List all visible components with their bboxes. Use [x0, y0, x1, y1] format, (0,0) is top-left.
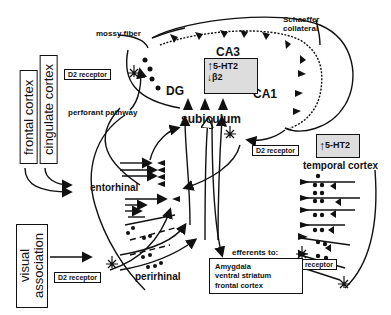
visual-association-line1: visual: [17, 248, 32, 281]
schaffer-collateral-label-line2: collateral: [283, 25, 318, 33]
temporal-cortex-outline: [345, 170, 376, 288]
serotonin-beta-receptor-box: ↑ 5-HT2 ↓ β2: [204, 58, 258, 94]
5ht2-temporal-label: 5-HT2: [325, 141, 350, 150]
efferent-target: ventral striatum: [215, 271, 297, 280]
d2-star-dg: [128, 65, 140, 77]
d2-star-temporal-right: [338, 276, 350, 288]
5ht2-label: 5-HT2: [213, 62, 238, 71]
d2-receptor-box-dg: D2 receptor: [64, 69, 111, 80]
temporal-cortex-label: temporal cortex: [303, 161, 378, 171]
mossy-fiber-label: mossy fiber: [96, 30, 141, 38]
visual-association-box: visual association: [16, 224, 48, 308]
entorhinal-label: entorhinal: [90, 183, 138, 193]
efferents-heading: efferents to:: [232, 249, 278, 257]
frontal-cortex-box: frontal cortex: [20, 70, 38, 164]
perirhinal-label: perirhinal: [135, 272, 181, 282]
efferent-target: frontal cortex: [215, 281, 297, 290]
efferents-box: Amygdala ventral striatum frontal cortex: [209, 258, 303, 294]
parahippocampal-outline: [91, 115, 145, 290]
perforant-pathway-label: perforant pathway: [68, 109, 137, 117]
efferent-target: Amygdala: [215, 262, 297, 271]
ca3-label: CA3: [216, 46, 240, 58]
visual-association-line2: association: [31, 232, 46, 297]
cingulate-cortex-box: cingulate cortex: [40, 55, 58, 164]
d2-star-subiculum: [224, 126, 236, 138]
d2-receptor-box-perirhinal: D2 receptor: [54, 272, 101, 283]
d2-star-perirhinal: [106, 256, 118, 268]
d2-receptor-box-subiculum: D2 receptor: [252, 145, 299, 156]
serotonin-temporal-receptor-box: ↑ 5-HT2: [316, 134, 360, 158]
dg-label: DG: [166, 85, 184, 97]
beta2-label: β2: [212, 73, 223, 82]
subiculum-label: subiculum: [181, 113, 241, 125]
hippocampal-circuit-diagram: mossy fiber Schaeffer collateral perfora…: [0, 0, 391, 315]
schaffer-collateral-label-line1: Schaeffer: [283, 16, 319, 24]
